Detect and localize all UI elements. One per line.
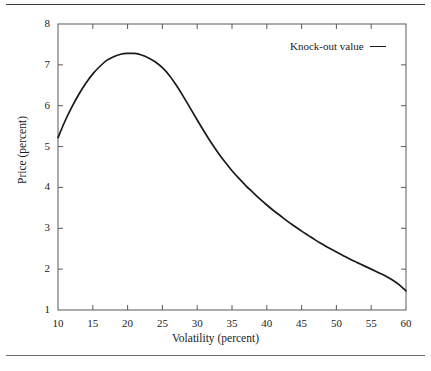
line-chart-plot <box>0 0 431 371</box>
legend-entry-label: Knock-out value <box>290 40 364 52</box>
x-tick-label: 30 <box>184 318 210 329</box>
series-line-knock-out-value <box>58 53 406 291</box>
x-tick-label: 55 <box>358 318 384 329</box>
x-tick-label: 20 <box>115 318 141 329</box>
x-tick-label: 50 <box>323 318 349 329</box>
x-tick-label: 45 <box>289 318 315 329</box>
x-axis-title: Volatility (percent) <box>0 332 431 344</box>
y-tick-label: 1 <box>32 304 50 315</box>
figure-container: 12345678 1015202530354045505560 Volatili… <box>0 0 431 371</box>
x-tick-label: 35 <box>219 318 245 329</box>
y-tick-label: 6 <box>32 100 50 111</box>
y-tick-label: 8 <box>32 18 50 29</box>
x-tick-label: 15 <box>80 318 106 329</box>
chart-legend: Knock-out value <box>290 39 386 53</box>
axis-ticks <box>58 24 406 310</box>
plot-frame <box>58 24 406 310</box>
y-tick-label: 3 <box>32 222 50 233</box>
y-tick-label: 2 <box>32 263 50 274</box>
y-axis-title: Price (percent) <box>16 90 28 210</box>
x-tick-label: 10 <box>45 318 71 329</box>
x-tick-label: 25 <box>149 318 175 329</box>
legend-line-swatch <box>370 46 386 47</box>
x-tick-label: 40 <box>254 318 280 329</box>
y-tick-label: 5 <box>32 141 50 152</box>
x-tick-label: 60 <box>393 318 419 329</box>
y-tick-label: 4 <box>32 181 50 192</box>
y-tick-label: 7 <box>32 59 50 70</box>
